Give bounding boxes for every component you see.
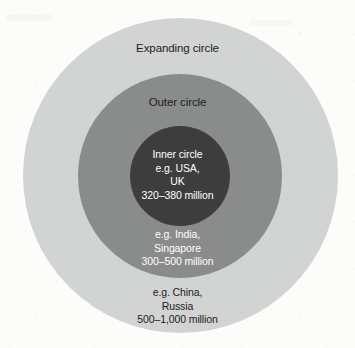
inner-circle-examples-line-1: e.g. USA,: [0, 162, 355, 176]
outer-circle-examples-line-1: e.g. India,: [0, 228, 355, 242]
outer-circle-examples-line-2: Singapore: [0, 242, 355, 256]
inner-circle-speakers: 320–380 million: [0, 189, 355, 203]
outer-circle-heading-text: Outer circle: [0, 95, 355, 110]
outer-circle-speakers: 300–500 million: [0, 255, 355, 269]
outer-circle-heading: Outer circle: [0, 95, 355, 110]
expanding-circle-label-group: e.g. China, Russia 500–1,000 million: [0, 286, 355, 327]
expanding-circle-examples-line-1: e.g. China,: [0, 286, 355, 300]
expanding-circle-speakers: 500–1,000 million: [0, 313, 355, 327]
diagram-canvas: Expanding circle Outer circle Inner circ…: [0, 0, 355, 348]
expanding-circle-examples-line-2: Russia: [0, 300, 355, 314]
expanding-circle-heading: Expanding circle: [0, 41, 355, 56]
expanding-circle-heading-text: Expanding circle: [0, 41, 355, 56]
inner-circle-heading-text: Inner circle: [0, 148, 355, 162]
outer-circle-label-group: e.g. India, Singapore 300–500 million: [0, 228, 355, 269]
inner-circle-examples-line-2: UK: [0, 175, 355, 189]
inner-circle-label-group: Inner circle e.g. USA, UK 320–380 millio…: [0, 148, 355, 203]
